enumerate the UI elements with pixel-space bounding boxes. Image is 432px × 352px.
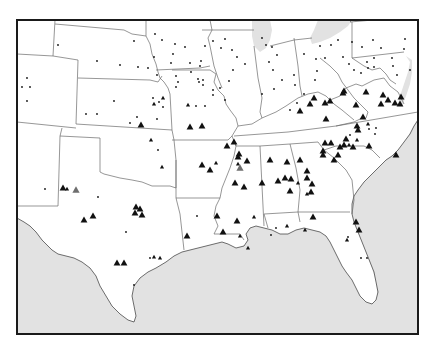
- site-dot-marker: [366, 257, 368, 259]
- site-dot-marker: [158, 101, 160, 103]
- site-dot-marker: [319, 45, 321, 47]
- site-dot-marker: [26, 77, 28, 79]
- map-container: [0, 0, 432, 352]
- site-dot-marker: [189, 62, 191, 64]
- site-dot-marker: [113, 100, 115, 102]
- site-dot-marker: [156, 118, 158, 120]
- site-dot-marker: [199, 65, 201, 67]
- site-dot-marker: [133, 284, 135, 286]
- site-dot-marker: [342, 56, 344, 58]
- site-dot-marker: [366, 61, 368, 63]
- site-dot-marker: [360, 72, 362, 74]
- site-dot-marker: [409, 69, 411, 71]
- site-dot-marker: [373, 66, 375, 68]
- site-dot-marker: [244, 63, 246, 65]
- site-dot-marker: [372, 39, 374, 41]
- site-dot-marker: [198, 81, 200, 83]
- site-dot-marker: [177, 81, 179, 83]
- site-dot-marker: [96, 60, 98, 62]
- site-dot-marker: [380, 47, 382, 49]
- site-dot-marker: [315, 58, 317, 60]
- site-dot-marker: [21, 86, 23, 88]
- site-dot-marker: [303, 93, 305, 95]
- site-dot-marker: [224, 99, 226, 101]
- site-dot-marker: [196, 215, 198, 217]
- site-dot-marker: [204, 105, 206, 107]
- site-dot-marker: [392, 65, 394, 67]
- site-dot-marker: [152, 97, 154, 99]
- site-dot-marker: [96, 113, 98, 115]
- site-dot-marker: [220, 47, 222, 49]
- site-dot-marker: [270, 234, 272, 236]
- site-dot-marker: [232, 69, 234, 71]
- site-dot-marker: [272, 69, 274, 71]
- site-dot-marker: [154, 33, 156, 35]
- site-dot-marker: [137, 66, 139, 68]
- site-dot-marker: [147, 67, 149, 69]
- site-dot-marker: [219, 87, 221, 89]
- us-southeast-map: [0, 0, 432, 352]
- site-dot-marker: [129, 122, 131, 124]
- site-dot-marker: [281, 79, 283, 81]
- site-dot-marker: [190, 71, 192, 73]
- site-dot-marker: [330, 44, 332, 46]
- site-dot-marker: [236, 56, 238, 58]
- site-dot-marker: [268, 61, 270, 63]
- site-dot-marker: [324, 57, 326, 59]
- site-dot-marker: [316, 70, 318, 72]
- site-dot-marker: [403, 48, 405, 50]
- site-dot-marker: [361, 46, 363, 48]
- site-dot-marker: [156, 74, 158, 76]
- site-dot-marker: [170, 62, 172, 64]
- site-dot-marker: [29, 86, 31, 88]
- site-dot-marker: [276, 54, 278, 56]
- site-dot-marker: [195, 105, 197, 107]
- site-dot-marker: [367, 67, 369, 69]
- site-dot-marker: [125, 231, 127, 233]
- site-dot-marker: [161, 39, 163, 41]
- site-dot-marker: [348, 63, 350, 65]
- site-dot-marker: [271, 46, 273, 48]
- site-dot-marker: [157, 149, 159, 151]
- site-dot-marker: [374, 133, 376, 135]
- site-dot-marker: [200, 60, 202, 62]
- site-dot-marker: [391, 57, 393, 59]
- site-dot-marker: [396, 74, 398, 76]
- site-dot-marker: [404, 38, 406, 40]
- site-dot-marker: [149, 257, 151, 259]
- site-dot-marker: [202, 84, 204, 86]
- site-dot-marker: [347, 236, 349, 238]
- site-dot-marker: [174, 43, 176, 45]
- site-dot-marker: [172, 53, 174, 55]
- site-dot-marker: [119, 64, 121, 66]
- site-dot-marker: [26, 100, 28, 102]
- site-dot-marker: [57, 44, 59, 46]
- site-dot-marker: [273, 88, 275, 90]
- site-dot-marker: [337, 39, 339, 41]
- site-dot-marker: [351, 41, 353, 43]
- site-dot-marker: [368, 128, 370, 130]
- site-dot-marker: [212, 94, 214, 96]
- site-dot-marker: [231, 49, 233, 51]
- site-dot-marker: [296, 102, 298, 104]
- site-dot-marker: [360, 257, 362, 259]
- site-dot-marker: [44, 188, 46, 190]
- site-dot-marker: [265, 44, 267, 46]
- site-dot-marker: [261, 37, 263, 39]
- site-dot-marker: [202, 79, 204, 81]
- site-dot-marker: [184, 46, 186, 48]
- site-dot-marker: [275, 227, 277, 229]
- site-dot-marker: [224, 38, 226, 40]
- site-dot-marker: [228, 80, 230, 82]
- site-dot-marker: [175, 75, 177, 77]
- site-dot-marker: [85, 113, 87, 115]
- site-dot-marker: [289, 109, 291, 111]
- site-dot-marker: [303, 53, 305, 55]
- site-dot-marker: [153, 56, 155, 58]
- site-dot-marker: [293, 74, 295, 76]
- site-dot-marker: [162, 106, 164, 108]
- site-dot-marker: [314, 79, 316, 81]
- site-dot-marker: [261, 93, 263, 95]
- site-dot-marker: [349, 134, 351, 136]
- site-dot-marker: [294, 84, 296, 86]
